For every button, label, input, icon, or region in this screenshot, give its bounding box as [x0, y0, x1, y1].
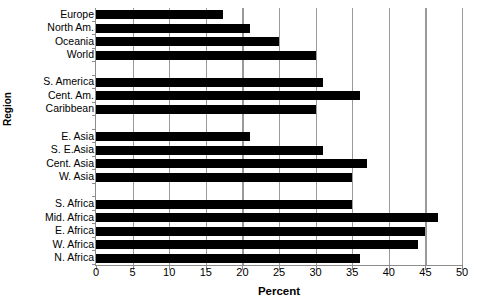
- y-tick-mark: [92, 129, 96, 130]
- category-label: E. Africa: [10, 225, 94, 236]
- bar: [96, 254, 360, 263]
- x-tick-label: 45: [410, 266, 440, 278]
- bar: [96, 10, 223, 19]
- category-label: S. E.Asia: [10, 144, 94, 155]
- category-label-column: EuropeNorth Am.OceaniaWorldS. AmericaCen…: [10, 8, 94, 265]
- y-tick-mark: [92, 61, 96, 62]
- y-tick-mark: [92, 264, 96, 265]
- y-tick-mark: [92, 115, 96, 116]
- x-axis-title: Percent: [96, 285, 462, 297]
- bar: [96, 51, 316, 60]
- category-label: S. Africa: [10, 198, 94, 209]
- y-tick-mark: [92, 75, 96, 76]
- bar: [96, 240, 418, 249]
- y-tick-mark: [92, 183, 96, 184]
- x-tick-label: 15: [191, 266, 221, 278]
- bar: [96, 91, 360, 100]
- x-tick-label: 20: [227, 266, 257, 278]
- bar: [96, 37, 279, 46]
- bar: [96, 173, 352, 182]
- gridline: [462, 8, 463, 265]
- y-tick-mark: [92, 210, 96, 211]
- y-tick-mark: [92, 223, 96, 224]
- y-tick-mark: [92, 34, 96, 35]
- y-tick-mark: [92, 237, 96, 238]
- category-label: Caribbean: [10, 103, 94, 114]
- bar-chart: Region EuropeNorth Am.OceaniaWorldS. Ame…: [0, 0, 493, 307]
- bar: [96, 146, 323, 155]
- bar: [96, 213, 438, 222]
- bar: [96, 159, 367, 168]
- bar: [96, 200, 352, 209]
- bar: [96, 78, 323, 87]
- category-label: W. Asia: [10, 171, 94, 182]
- y-tick-mark: [92, 169, 96, 170]
- x-tick-label: 30: [301, 266, 331, 278]
- category-label: S. America: [10, 76, 94, 87]
- y-tick-mark: [92, 250, 96, 251]
- category-label: Europe: [10, 9, 94, 20]
- x-tick-label: 35: [337, 266, 367, 278]
- category-label: Mid. Africa: [10, 212, 94, 223]
- x-tick-label: 50: [447, 266, 477, 278]
- x-axis-tick-labels: 05101520253035404550: [96, 266, 476, 280]
- category-label: Cent. Am.: [10, 90, 94, 101]
- y-tick-mark: [92, 102, 96, 103]
- x-tick-label: 10: [154, 266, 184, 278]
- y-tick-mark: [92, 21, 96, 22]
- y-tick-mark: [92, 156, 96, 157]
- y-tick-mark: [92, 142, 96, 143]
- plot-area: [96, 8, 462, 265]
- category-label: World: [10, 49, 94, 60]
- gridline: [425, 8, 426, 265]
- x-tick-label: 40: [374, 266, 404, 278]
- category-label: Oceania: [10, 36, 94, 47]
- y-tick-mark: [92, 88, 96, 89]
- y-tick-mark: [92, 196, 96, 197]
- bar: [96, 132, 250, 141]
- bar: [96, 105, 316, 114]
- y-tick-mark: [92, 48, 96, 49]
- bar: [96, 24, 250, 33]
- category-label: Cent. Asia: [10, 158, 94, 169]
- x-tick-label: 5: [118, 266, 148, 278]
- category-label: N. Africa: [10, 252, 94, 263]
- x-tick-label: 0: [81, 266, 111, 278]
- bar: [96, 227, 425, 236]
- category-label: W. Africa: [10, 239, 94, 250]
- category-label: North Am.: [10, 22, 94, 33]
- x-tick-label: 25: [264, 266, 294, 278]
- category-label: E. Asia: [10, 131, 94, 142]
